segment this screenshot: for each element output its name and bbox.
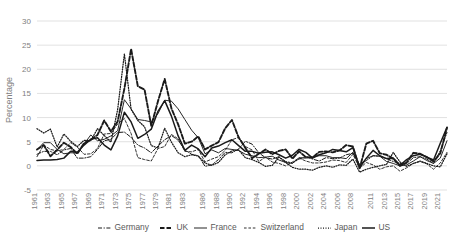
x-tick-label: 1990 <box>225 193 234 209</box>
legend-label-uk: UK <box>177 222 189 232</box>
x-tick-label: 1996 <box>265 193 274 209</box>
x-tick-label: 2013 <box>380 193 389 209</box>
legend-label-us: US <box>379 222 391 232</box>
x-tick-label: 1975 <box>124 193 133 209</box>
y-axis-tick-labels: -5051015202530 <box>22 17 31 195</box>
x-axis-tick-labels: 1961196319651967196919711973197519771979… <box>30 193 442 209</box>
x-tick-label: 1998 <box>279 193 288 209</box>
legend-label-france: France <box>211 222 237 232</box>
x-tick-label: 2021 <box>433 193 442 209</box>
inflation-line-chart: -5051015202530 1961196319651967196919711… <box>0 0 452 241</box>
y-tick-label: 20 <box>22 65 31 74</box>
x-tick-label: 2019 <box>420 193 429 209</box>
x-tick-label: 1969 <box>84 193 93 209</box>
legend-label-japan: Japan <box>335 222 358 232</box>
y-tick-label: 10 <box>22 114 31 123</box>
y-axis-title: Percentage <box>4 77 14 123</box>
x-tick-label: 2017 <box>406 193 415 209</box>
legend-label-switzerland: Switzerland <box>261 222 305 232</box>
x-tick-label: 2004 <box>319 193 328 209</box>
chart-legend: GermanyUKFranceSwitzerlandJapanUS <box>98 222 391 232</box>
x-tick-label: 1992 <box>238 193 247 209</box>
x-tick-label: 1963 <box>43 193 52 209</box>
x-tick-label: 1971 <box>97 193 106 209</box>
y-tick-label: 5 <box>27 138 32 147</box>
y-tick-label: 15 <box>22 89 31 98</box>
x-tick-label: 1994 <box>252 193 261 209</box>
x-tick-label: 1965 <box>57 193 66 209</box>
x-tick-label: 1988 <box>212 193 221 209</box>
x-tick-label: 1983 <box>178 193 187 209</box>
y-tick-label: 30 <box>22 17 31 26</box>
x-tick-label: 1967 <box>70 193 79 209</box>
chart-canvas: -5051015202530 1961196319651967196919711… <box>0 0 452 241</box>
y-tick-label: 25 <box>22 41 31 50</box>
x-tick-label: 2000 <box>292 193 301 209</box>
x-tick-label: 2011 <box>366 193 375 209</box>
series-line-switzerland <box>37 119 447 172</box>
y-tick-label: 0 <box>27 162 32 171</box>
x-tick-label: 1973 <box>111 193 120 209</box>
x-tick-label: 1981 <box>164 193 173 209</box>
data-series-group <box>37 49 447 172</box>
x-tick-label: 1961 <box>30 193 39 209</box>
x-tick-label: 1986 <box>198 193 207 209</box>
x-tick-label: 2008 <box>346 193 355 209</box>
x-tick-label: 2015 <box>393 193 402 209</box>
legend-label-germany: Germany <box>115 222 150 232</box>
x-tick-label: 2006 <box>333 193 342 209</box>
series-line-uk <box>37 49 447 168</box>
x-tick-label: 1979 <box>151 193 160 209</box>
x-tick-label: 1977 <box>138 193 147 209</box>
x-tick-label: 2002 <box>306 193 315 209</box>
